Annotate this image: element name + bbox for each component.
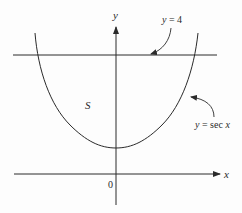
secant-var: x (224, 119, 230, 130)
secant-rhs: = sec (199, 119, 225, 130)
secant-label: y = sec x (194, 119, 230, 130)
region-s-label: S (85, 99, 91, 111)
y-equals-4-rhs: = 4 (166, 14, 182, 25)
x-axis-label: x (223, 168, 229, 180)
y-equals-4-label: y = 4 (161, 14, 182, 25)
secant-region-diagram: y x 0 S y = 4 y = sec x (0, 0, 242, 213)
origin-label: 0 (108, 179, 113, 190)
secant-leader-arrow (191, 97, 214, 117)
y-equals-4-leader-arrow (151, 28, 171, 54)
diagram-canvas: y x 0 S y = 4 y = sec x (0, 0, 242, 213)
y-axis-label: y (112, 9, 118, 21)
